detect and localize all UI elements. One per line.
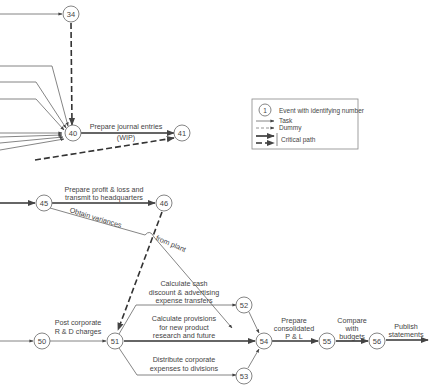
svg-text:34: 34 <box>67 10 75 19</box>
event-node-55: 55 <box>319 333 335 349</box>
arrow-into-40-c <box>0 99 64 130</box>
legend-event-symbol: 1 <box>259 104 271 116</box>
svg-text:52: 52 <box>240 301 248 310</box>
critical-dummy-34-40 <box>71 23 72 125</box>
activity-label-51-52-line3: expense transfers <box>155 296 213 305</box>
arrow-52-54 <box>249 312 259 333</box>
svg-text:55: 55 <box>323 337 331 346</box>
event-node-34: 34 <box>63 6 79 22</box>
arrow-into-40-a <box>0 66 68 126</box>
event-node-41: 41 <box>174 125 190 141</box>
arrow-into-40-e <box>0 135 62 137</box>
activity-label-40-41-line2: (WIP) <box>117 133 135 142</box>
event-node-45: 45 <box>36 195 52 211</box>
activity-label-40-41-line1: Prepare journal entries <box>90 122 163 131</box>
svg-text:50: 50 <box>38 337 46 346</box>
legend-dummy-label: Dummy <box>279 124 302 132</box>
pert-network-diagram: Prepare journal entries (WIP) 34 40 41 1… <box>0 0 430 389</box>
event-node-46: 46 <box>156 195 172 211</box>
critical-dummy-into-41 <box>35 138 174 160</box>
activity-label-56-out-line2: statements <box>388 330 424 339</box>
critical-dummy-46-51 <box>118 212 162 330</box>
svg-text:41: 41 <box>178 129 186 138</box>
svg-text:45: 45 <box>40 199 48 208</box>
activity-label-55-56-line3: budgets <box>339 332 365 341</box>
svg-text:51: 51 <box>111 337 119 346</box>
activity-label-51-53-line1: Distribute corporate <box>153 355 216 364</box>
arrow-53-54 <box>248 349 259 368</box>
svg-text:40: 40 <box>69 129 77 138</box>
legend-critical-label: Critical path <box>281 136 316 144</box>
event-node-56: 56 <box>369 333 385 349</box>
svg-text:53: 53 <box>240 372 248 381</box>
activity-label-51-54-line1: Calculate provisions <box>152 314 217 323</box>
arrow-into-40-g <box>0 139 64 150</box>
activity-label-45-54-part1: Obtain variances <box>69 205 124 229</box>
event-node-40: 40 <box>65 125 81 141</box>
activity-label-54-55-line3: P & L <box>285 332 302 341</box>
svg-text:56: 56 <box>373 337 381 346</box>
event-node-51: 51 <box>107 333 123 349</box>
activity-label-51-54-line3: research and future <box>153 331 215 340</box>
event-node-50: 50 <box>34 333 50 349</box>
legend-task-label: Task <box>279 117 293 124</box>
legend-event-label: Event with identifying number <box>279 107 365 115</box>
activity-label-45-46-line2: transmit to headquarters <box>65 193 143 202</box>
event-node-53: 53 <box>236 368 252 384</box>
svg-text:1: 1 <box>263 107 267 114</box>
activity-label-51-53-line2: expenses to divisions <box>150 364 219 373</box>
activity-label-51-52-line1: Calculate cash <box>160 279 207 288</box>
event-node-52: 52 <box>236 297 252 313</box>
svg-text:54: 54 <box>260 337 268 346</box>
legend: 1 Event with identifying number Task Dum… <box>252 99 365 149</box>
activity-label-50-51-line2: R & D charges <box>55 327 102 336</box>
activity-label-50-51-line1: Post corporate <box>55 318 102 327</box>
svg-text:46: 46 <box>160 199 168 208</box>
event-node-54: 54 <box>256 333 272 349</box>
arrow-into-40-f <box>0 137 63 143</box>
